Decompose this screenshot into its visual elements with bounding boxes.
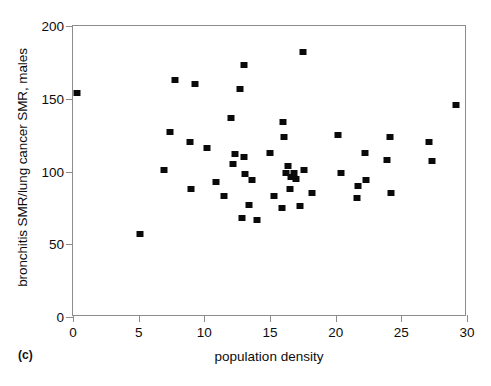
data-point	[231, 151, 238, 157]
data-point	[280, 119, 287, 125]
data-point	[335, 132, 342, 138]
data-point	[172, 77, 179, 83]
data-point	[186, 139, 193, 145]
data-point	[309, 190, 316, 196]
y-tick-mark	[66, 317, 73, 318]
data-point	[353, 195, 360, 201]
y-axis-label: bronchitis SMR/lung cancer SMR, males	[15, 13, 30, 323]
x-tick-label: 0	[69, 325, 77, 340]
data-point	[213, 179, 220, 185]
data-point	[285, 163, 292, 169]
data-point	[270, 193, 277, 199]
x-axis-label: population density	[72, 349, 466, 364]
data-point	[239, 215, 246, 221]
data-point	[236, 86, 243, 92]
data-point	[227, 115, 234, 121]
x-tick-mark	[204, 315, 205, 322]
x-tick-mark	[73, 315, 74, 322]
data-point	[386, 134, 393, 140]
data-point	[387, 190, 394, 196]
x-tick-mark	[270, 315, 271, 322]
plot-area: 050100150200 051015202530	[72, 25, 466, 316]
x-tick-label: 25	[394, 325, 409, 340]
data-point	[293, 176, 300, 182]
x-tick-label: 10	[197, 325, 212, 340]
data-point	[240, 62, 247, 68]
data-point	[230, 161, 237, 167]
data-point	[428, 158, 435, 164]
x-tick-mark	[401, 315, 402, 322]
data-point	[278, 205, 285, 211]
data-point	[297, 203, 304, 209]
data-point	[167, 129, 174, 135]
y-tick-mark	[66, 244, 73, 245]
data-point	[383, 157, 390, 163]
data-point	[203, 145, 210, 151]
panel-tag: (c)	[18, 348, 33, 362]
y-tick-label: 200	[41, 19, 64, 34]
data-point	[337, 170, 344, 176]
data-point	[425, 139, 432, 145]
data-point	[221, 193, 228, 199]
data-point	[286, 186, 293, 192]
scatter-plot-figure: bronchitis SMR/lung cancer SMR, males 05…	[0, 0, 491, 386]
y-tick-label: 0	[56, 310, 64, 325]
data-point	[281, 134, 288, 140]
y-tick-mark	[66, 172, 73, 173]
x-tick-mark	[139, 315, 140, 322]
data-point	[362, 177, 369, 183]
data-point	[354, 183, 361, 189]
x-tick-label: 20	[328, 325, 343, 340]
data-point	[253, 217, 260, 223]
data-point	[361, 150, 368, 156]
data-point	[248, 177, 255, 183]
data-point	[267, 150, 274, 156]
data-point	[240, 154, 247, 160]
y-tick-label: 100	[41, 164, 64, 179]
y-tick-label: 50	[49, 237, 64, 252]
data-point	[453, 102, 460, 108]
y-tick-label: 150	[41, 91, 64, 106]
x-tick-label: 30	[459, 325, 474, 340]
x-tick-label: 5	[135, 325, 143, 340]
y-tick-mark	[66, 99, 73, 100]
y-tick-mark	[66, 26, 73, 27]
x-tick-label: 15	[262, 325, 277, 340]
data-point	[160, 167, 167, 173]
data-point	[136, 231, 143, 237]
data-point	[245, 202, 252, 208]
x-tick-mark	[467, 315, 468, 322]
data-point	[299, 49, 306, 55]
x-tick-mark	[336, 315, 337, 322]
data-point	[188, 186, 195, 192]
data-point	[192, 81, 199, 87]
data-point	[73, 90, 80, 96]
data-point	[301, 167, 308, 173]
